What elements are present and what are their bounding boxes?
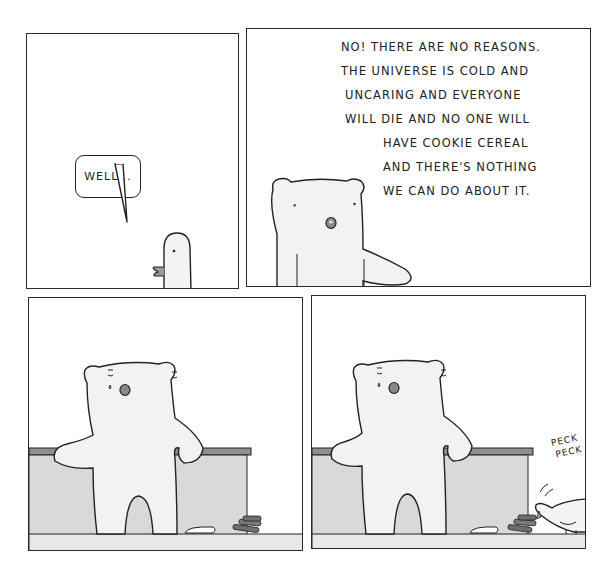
panel-4: PECK PECK	[311, 295, 586, 549]
speech-line: AND THERE'S NOTHING	[341, 155, 541, 179]
panel-1: WELL...	[26, 33, 239, 289]
speech-line: THE UNIVERSE IS COLD AND	[341, 59, 541, 83]
bird-illustration	[27, 34, 239, 289]
speech-line: NO! THERE ARE NO REASONS.	[341, 35, 541, 59]
crying-bear-illustration	[29, 298, 303, 551]
speech-line: WE CAN DO ABOUT IT.	[341, 179, 541, 203]
bear-speech: NO! THERE ARE NO REASONS. THE UNIVERSE I…	[341, 35, 541, 203]
panel-3	[28, 297, 303, 551]
panel-2: NO! THERE ARE NO REASONS. THE UNIVERSE I…	[246, 28, 591, 287]
speech-line: UNCARING AND EVERYONE	[341, 83, 541, 107]
crying-bear-bird-illustration	[312, 296, 586, 549]
speech-line: HAVE COOKIE CEREAL	[341, 131, 541, 155]
speech-line: WILL DIE AND NO ONE WILL	[341, 107, 541, 131]
